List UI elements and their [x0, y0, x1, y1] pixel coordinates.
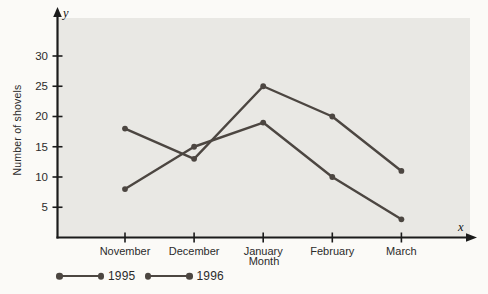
x-tick-label: March: [386, 245, 417, 257]
data-point-1996: [260, 120, 266, 126]
y-tick-label: 25: [35, 80, 48, 92]
data-point-1996: [329, 174, 335, 180]
legend-label: 1995: [108, 269, 136, 283]
x-tick-label: December: [169, 245, 220, 257]
legend-label: 1996: [197, 269, 225, 283]
y-tick-label: 15: [35, 141, 48, 153]
data-point-1995: [329, 114, 335, 120]
plot-area: [57, 18, 470, 238]
legend-line-marker-icon: [58, 275, 102, 278]
data-point-1995: [122, 126, 128, 132]
y-axis-symbol: y: [63, 6, 69, 21]
chart-canvas: 51015202530NovemberDecemberJanuaryFebrua…: [0, 0, 488, 294]
data-point-1995: [260, 83, 266, 89]
x-axis-arrow-icon: [466, 233, 477, 241]
data-point-1996: [191, 144, 197, 150]
y-tick-label: 30: [35, 50, 48, 62]
y-axis-title: Number of shovels: [11, 85, 23, 176]
x-tick-label: February: [310, 245, 355, 257]
legend-item-1996: 1996: [147, 269, 225, 283]
y-axis-arrow-icon: [53, 7, 62, 17]
legend-line-marker-icon: [147, 275, 191, 278]
legend-item-1995: 1995: [58, 269, 136, 283]
x-axis-title: Month: [249, 255, 280, 267]
y-tick-label: 10: [35, 171, 48, 183]
chart-legend: 1995 1996: [58, 269, 224, 283]
y-tick-label: 20: [35, 110, 48, 122]
y-tick-label: 5: [42, 201, 48, 213]
shovel-sales-line-chart: 51015202530NovemberDecemberJanuaryFebrua…: [0, 0, 488, 294]
x-axis-symbol: x: [458, 220, 464, 235]
data-point-1996: [399, 216, 405, 222]
data-point-1996: [122, 186, 128, 192]
data-point-1995: [191, 156, 197, 162]
data-point-1995: [399, 168, 405, 174]
x-tick-label: November: [100, 245, 151, 257]
